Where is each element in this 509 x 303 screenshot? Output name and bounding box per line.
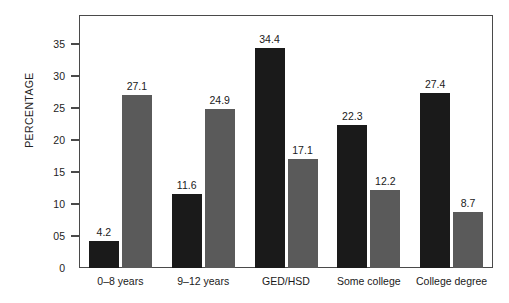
bar [337, 125, 367, 268]
y-tick-mark [71, 139, 79, 140]
bars-layer [79, 15, 493, 268]
bar [89, 241, 119, 268]
y-axis-title: PERCENTAGE [23, 45, 35, 175]
x-axis-category-label: 0–8 years [79, 276, 162, 287]
bar [172, 194, 202, 268]
x-axis-category-label: 9–12 years [162, 276, 245, 287]
y-tick-label: 0 [39, 263, 65, 274]
bar-value-label: 27.1 [114, 81, 160, 92]
bar-value-label: 24.9 [197, 95, 243, 106]
y-tick-mark [71, 171, 79, 172]
x-axis-category-label: College degree [410, 276, 493, 287]
bar [255, 48, 285, 268]
y-tick-label: 25 [39, 103, 65, 114]
bar-value-label: 27.4 [412, 79, 458, 90]
y-tick-label: 15 [39, 167, 65, 178]
y-tick-mark [71, 203, 79, 204]
bar-value-label: 34.4 [247, 34, 293, 45]
bar [122, 95, 152, 268]
y-tick-mark [71, 75, 79, 76]
x-axis-category-label: Some college [327, 276, 410, 287]
y-tick-label: 35 [39, 39, 65, 50]
bar-value-label: 12.2 [362, 176, 408, 187]
bar-chart: PERCENTAGE 005101520253035 0–8 years9–12… [0, 0, 509, 303]
bar-value-label: 4.2 [81, 227, 127, 238]
bar-value-label: 22.3 [329, 111, 375, 122]
bar [288, 159, 318, 268]
x-axis-category-label: GED/HSD [245, 276, 328, 287]
bar-value-label: 11.6 [164, 180, 210, 191]
bar-value-label: 17.1 [280, 145, 326, 156]
y-tick-label: 05 [39, 231, 65, 242]
y-tick-label: 20 [39, 135, 65, 146]
y-tick-mark [71, 107, 79, 108]
bar [420, 93, 450, 268]
bar-value-label: 8.7 [445, 198, 491, 209]
y-tick-label: 30 [39, 71, 65, 82]
y-tick-mark [71, 43, 79, 44]
y-tick-label: 10 [39, 199, 65, 210]
bar [453, 212, 483, 268]
y-tick-mark [71, 235, 79, 236]
bar [370, 190, 400, 268]
